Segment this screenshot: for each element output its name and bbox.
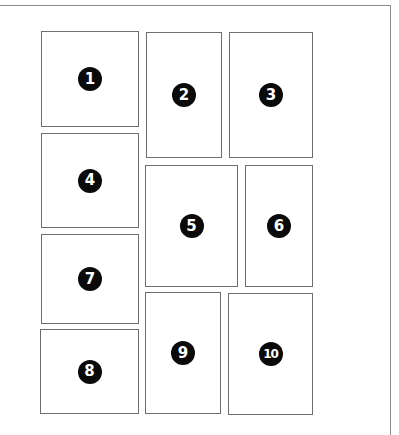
number-badge: 7 [78,267,102,291]
panel-5: 5 [145,165,238,287]
number-badge: 6 [267,214,291,238]
number-badge: 1 [78,67,102,91]
number-badge: 10 [259,342,283,366]
panel-4: 4 [41,133,139,228]
panel-6: 6 [245,165,313,287]
number-badge: 9 [171,341,195,365]
panel-10: 10 [228,293,313,415]
page-frame-right-border [390,5,391,435]
panel-7: 7 [41,234,139,324]
page-frame-top-border [0,5,391,6]
panel-8: 8 [40,329,139,414]
number-badge: 3 [259,83,283,107]
number-badge: 2 [172,83,196,107]
panel-1: 1 [41,31,139,127]
panel-2: 2 [146,32,222,158]
panel-9: 9 [145,292,221,414]
number-badge: 5 [180,214,204,238]
number-badge: 8 [78,360,102,384]
panel-3: 3 [229,32,313,158]
number-badge: 4 [78,169,102,193]
